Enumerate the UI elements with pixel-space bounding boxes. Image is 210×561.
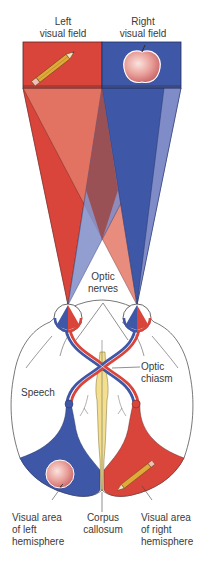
- apple-icon: [46, 460, 74, 488]
- left-visual-field-label-line2: visual field: [40, 28, 87, 40]
- optic-chiasm-label: Optic chiasm: [141, 361, 173, 385]
- corpus-callosum-label: Corpus callosum: [83, 512, 122, 536]
- visual-area-left-label: Visual area of left hemisphere: [12, 512, 64, 548]
- right-visual-field-label-line2: visual field: [120, 28, 167, 40]
- right-visual-field-label: Right visual field: [120, 16, 167, 40]
- visual-area-left-line1: Visual area: [12, 512, 64, 524]
- lgn-left: [65, 400, 73, 408]
- corpus-callosum-label-line2: callosum: [83, 524, 122, 536]
- visual-area-left-line2: of left: [12, 524, 64, 536]
- visual-area-right-line3: hemisphere: [141, 536, 193, 548]
- left-eye: [54, 304, 82, 332]
- visual-area-left-line3: hemisphere: [12, 536, 64, 548]
- lgn-right: [132, 400, 140, 408]
- right-visual-field-label-line1: Right: [120, 16, 167, 28]
- optic-nerves-label: Optic nerves: [88, 271, 118, 295]
- optic-chiasm-label-line2: chiasm: [141, 373, 173, 385]
- speech-label: Speech: [21, 387, 55, 399]
- optic-nerves-label-line1: Optic: [88, 271, 118, 283]
- visual-area-right-label: Visual area of right hemisphere: [141, 512, 193, 548]
- right-eye: [123, 304, 151, 332]
- visual-area-right-line2: of right: [141, 524, 193, 536]
- left-visual-field-label: Left visual field: [40, 16, 87, 40]
- corpus-callosum-label-line1: Corpus: [83, 512, 122, 524]
- visual-area-right-line1: Visual area: [141, 512, 193, 524]
- left-visual-field-label-line1: Left: [40, 16, 87, 28]
- optic-nerves-label-line2: nerves: [88, 283, 118, 295]
- optic-chiasm-label-line1: Optic: [141, 361, 173, 373]
